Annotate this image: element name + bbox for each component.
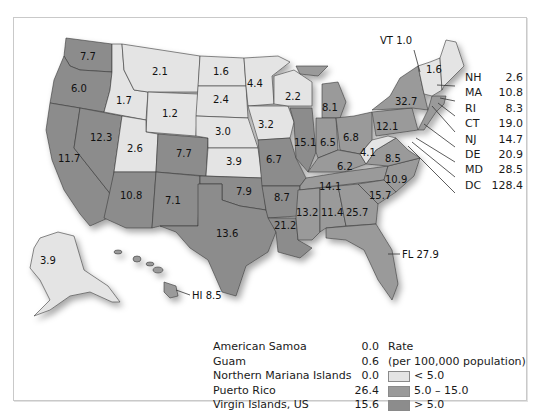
- svg-text:10.8: 10.8: [120, 190, 142, 201]
- svg-text:1.6: 1.6: [213, 66, 229, 77]
- svg-text:13.6: 13.6: [216, 228, 238, 239]
- svg-text:4.4: 4.4: [247, 78, 263, 89]
- svg-text:6.8: 6.8: [343, 132, 359, 143]
- swatch-high: [388, 400, 410, 411]
- legend-item-high: > 5.0: [388, 398, 526, 413]
- svg-text:2.1: 2.1: [152, 66, 168, 77]
- svg-text:8.1: 8.1: [322, 102, 338, 113]
- legend: Rate (per 100,000 population) < 5.0 5.0 …: [388, 340, 526, 413]
- svg-text:12.3: 12.3: [90, 132, 112, 143]
- state-HI: [114, 250, 178, 298]
- swatch-low: [388, 371, 410, 382]
- legend-title: Rate: [388, 340, 526, 355]
- svg-text:6.7: 6.7: [266, 154, 282, 165]
- ne-row-ri: RI8.3: [465, 101, 523, 116]
- swatch-mid: [388, 386, 410, 397]
- territory-row: American Samoa0.0: [213, 340, 379, 355]
- ne-row-md: MD28.5: [465, 162, 523, 177]
- territory-row: Virgin Islands, US15.6: [213, 398, 379, 413]
- svg-text:1.7: 1.7: [116, 95, 132, 106]
- svg-text:10.9: 10.9: [385, 174, 407, 185]
- svg-text:7.7: 7.7: [80, 51, 96, 62]
- ne-row-ma: MA10.8: [465, 85, 523, 100]
- territory-row: Northern Mariana Islands0.0: [213, 369, 379, 384]
- svg-text:2.4: 2.4: [213, 94, 229, 105]
- svg-text:3.2: 3.2: [258, 119, 274, 130]
- ne-row-nh: NH2.6: [465, 70, 523, 85]
- svg-text:14.1: 14.1: [319, 181, 341, 192]
- state-ME: [440, 40, 464, 90]
- callout-vt: VT 1.0: [380, 35, 412, 46]
- svg-text:6.0: 6.0: [71, 83, 87, 94]
- svg-text:7.1: 7.1: [165, 195, 181, 206]
- legend-item-mid: 5.0 – 15.0: [388, 384, 526, 399]
- territory-row: Guam0.6: [213, 355, 379, 370]
- svg-text:8.5: 8.5: [385, 153, 401, 164]
- svg-text:1.2: 1.2: [162, 108, 178, 119]
- northeast-state-list: NH2.6 MA10.8 RI8.3 CT19.0 NJ14.7 DE20.9 …: [465, 70, 523, 193]
- svg-text:2.6: 2.6: [127, 143, 143, 154]
- svg-text:25.7: 25.7: [346, 207, 368, 218]
- svg-text:21.2: 21.2: [274, 220, 296, 231]
- svg-text:11.7: 11.7: [58, 153, 80, 164]
- svg-text:11.4: 11.4: [321, 207, 343, 218]
- ne-row-nj: NJ14.7: [465, 132, 523, 147]
- territory-row: Puerto Rico26.4: [213, 384, 379, 399]
- svg-text:6.5: 6.5: [320, 137, 336, 148]
- svg-text:8.7: 8.7: [274, 192, 290, 203]
- svg-text:3.9: 3.9: [40, 255, 56, 266]
- svg-text:6.2: 6.2: [337, 161, 353, 172]
- territories-table: American Samoa0.0 Guam0.6 Northern Maria…: [213, 340, 379, 413]
- callout-fl: FL 27.9: [402, 249, 439, 260]
- svg-text:4.1: 4.1: [360, 147, 376, 158]
- svg-text:7.9: 7.9: [236, 186, 252, 197]
- ne-row-dc: DC128.4: [465, 178, 523, 193]
- svg-text:13.2: 13.2: [296, 207, 318, 218]
- legend-subtitle: (per 100,000 population): [388, 355, 526, 370]
- callout-hi: HI 8.5: [192, 290, 222, 301]
- svg-text:7.7: 7.7: [176, 148, 192, 159]
- svg-text:1.6: 1.6: [426, 64, 442, 75]
- state-AK: [30, 232, 120, 316]
- svg-text:3.0: 3.0: [215, 126, 231, 137]
- svg-text:2.2: 2.2: [285, 91, 301, 102]
- svg-text:15.1: 15.1: [294, 137, 316, 148]
- svg-text:3.9: 3.9: [226, 156, 242, 167]
- svg-text:12.1: 12.1: [376, 121, 398, 132]
- state-FL: [326, 224, 398, 300]
- svg-text:32.7: 32.7: [395, 96, 417, 107]
- ne-row-ct: CT19.0: [465, 116, 523, 131]
- svg-text:15.7: 15.7: [369, 190, 391, 201]
- ne-row-de: DE20.9: [465, 147, 523, 162]
- legend-item-low: < 5.0: [388, 369, 526, 384]
